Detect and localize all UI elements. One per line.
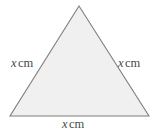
side-label-left-unit: cm (18, 56, 33, 70)
side-label-left: xcm (11, 57, 33, 70)
figure-container: xcm xcm xcm (0, 0, 159, 135)
side-label-bottom-variable: x (62, 117, 68, 131)
side-label-bottom-unit: cm (69, 117, 84, 131)
side-label-left-variable: x (11, 56, 17, 70)
side-label-right-unit: cm (125, 56, 140, 70)
side-label-right: xcm (118, 57, 140, 70)
side-label-right-variable: x (118, 56, 124, 70)
side-label-bottom: xcm (62, 118, 84, 131)
